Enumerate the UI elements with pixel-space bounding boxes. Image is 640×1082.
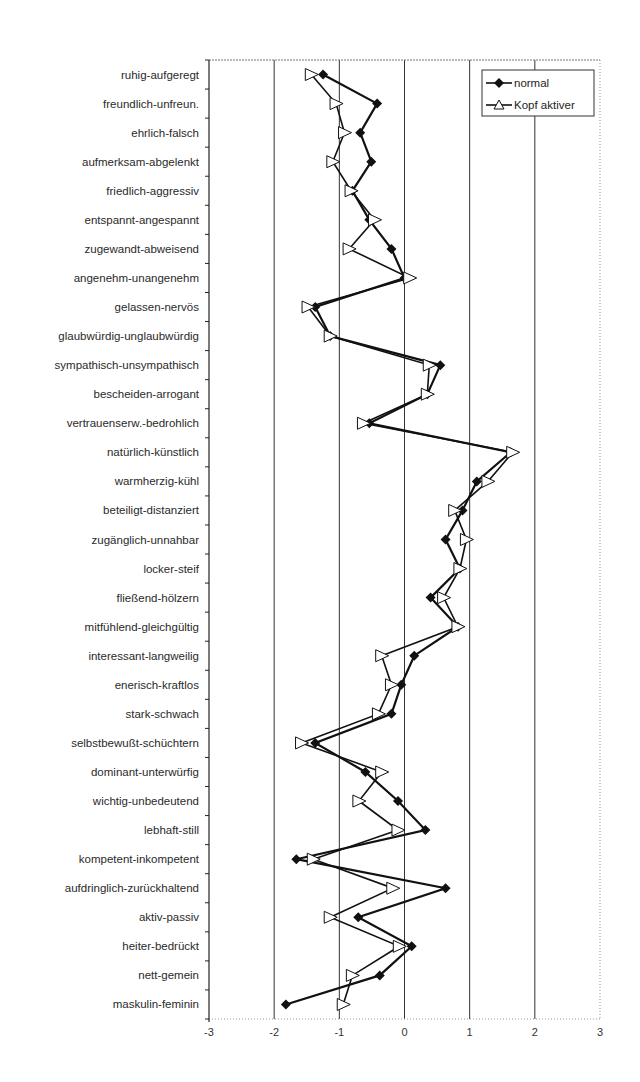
triangle-marker-icon (296, 737, 309, 749)
category-label: friedlich-aggressiv (106, 185, 199, 197)
diamond-marker-icon (355, 128, 365, 138)
triangle-marker-icon (387, 882, 400, 894)
category-label: locker-steif (143, 563, 199, 575)
category-label: beteiligt-distanziert (103, 504, 200, 516)
category-label: zugänglich-unnahbar (92, 534, 200, 546)
x-tick-label: 3 (597, 1026, 603, 1038)
triangle-marker-icon (404, 272, 417, 284)
triangle-marker-icon (357, 417, 370, 429)
triangle-marker-icon (482, 475, 495, 487)
data-series (281, 69, 520, 1011)
x-tick-label: 0 (401, 1026, 407, 1038)
category-label: bescheiden-arrogant (94, 388, 200, 400)
category-label: angenehm-unangenehm (74, 272, 199, 284)
category-label: entspannt-angespannt (85, 214, 200, 226)
category-label: vertrauenserw.-bedrohlich (67, 417, 199, 429)
category-label: glaubwürdig-unglaubwürdig (58, 330, 199, 342)
category-label: freundlich-unfreun. (103, 98, 199, 110)
category-label: heiter-bedrückt (122, 940, 200, 952)
legend-label-normal: normal (514, 77, 549, 89)
category-label: selbstbewußt-schüchtern (71, 737, 199, 749)
category-label: ruhig-aufgeregt (121, 69, 200, 81)
series-line-kopf-aktiver (302, 75, 513, 1005)
diamond-marker-icon (318, 70, 328, 80)
category-label: maskulin-feminin (113, 998, 199, 1010)
category-label: warmherzig-kühl (114, 475, 199, 487)
category-label: sympathisch-unsympathisch (55, 359, 199, 371)
triangle-marker-icon (460, 534, 473, 546)
diamond-marker-icon (281, 999, 291, 1009)
diamond-marker-icon (372, 99, 382, 109)
category-label: aufmerksam-abgelenkt (82, 156, 200, 168)
triangle-marker-icon (369, 214, 382, 226)
category-label: enerisch-kraftlos (115, 679, 200, 691)
triangle-marker-icon (385, 679, 398, 691)
triangle-marker-icon (302, 301, 315, 313)
diamond-marker-icon (291, 854, 301, 864)
legend-item-kopf-aktiver: Kopf aktiver (486, 99, 575, 111)
x-tick-label: 1 (467, 1026, 473, 1038)
category-label: nett-gemein (138, 969, 199, 981)
triangle-marker-icon (376, 650, 389, 662)
legend-label-kopf-aktiver: Kopf aktiver (514, 99, 575, 111)
triangle-marker-icon (339, 127, 352, 139)
triangle-marker-icon (305, 69, 318, 81)
axes (205, 60, 209, 1022)
category-label: fließend-hölzern (117, 592, 199, 604)
category-label: natürlich-künstlich (107, 446, 199, 458)
x-tick-label: -3 (204, 1026, 214, 1038)
category-label: zugewandt-abweisend (85, 243, 199, 255)
category-label: lebhaft-still (144, 824, 199, 836)
diamond-marker-icon (386, 709, 396, 719)
gridlines (209, 60, 600, 1019)
category-label: ehrlich-falsch (131, 127, 199, 139)
category-label: interessant-langweilig (88, 650, 199, 662)
semantic-differential-chart: ruhig-aufgeregtfreundlich-unfreun.ehrlic… (0, 0, 640, 1082)
triangle-marker-icon (343, 243, 356, 255)
triangle-marker-icon (507, 446, 520, 458)
diamond-marker-icon (353, 912, 363, 922)
x-tick-label: -1 (334, 1026, 344, 1038)
diamond-marker-icon (441, 883, 451, 893)
category-label: kompetent-inkompetent (79, 853, 200, 865)
triangle-marker-icon (376, 766, 389, 778)
x-tick-label: 2 (532, 1026, 538, 1038)
category-label: stark-schwach (126, 708, 200, 720)
series-line-normal (286, 75, 511, 1005)
triangle-marker-icon (438, 592, 451, 604)
category-label: aufdringlich-zurückhaltend (65, 882, 199, 894)
category-label: wichtig-unbedeutend (92, 795, 199, 807)
x-tick-label: -2 (269, 1026, 279, 1038)
triangle-marker-icon (324, 911, 337, 923)
category-label: aktiv-passiv (139, 911, 199, 923)
category-labels: ruhig-aufgeregtfreundlich-unfreun.ehrlic… (55, 69, 200, 1011)
category-label: gelassen-nervös (115, 301, 200, 313)
x-tick-labels: -3-2-10123 (204, 1026, 603, 1038)
legend: normal Kopf aktiver (482, 70, 594, 116)
category-label: dominant-unterwürfig (91, 766, 199, 778)
triangle-marker-icon (346, 969, 359, 981)
category-label: mitfühlend-gleichgültig (85, 621, 199, 633)
diamond-marker-icon (441, 535, 451, 545)
triangle-marker-icon (327, 156, 340, 168)
chart-canvas: ruhig-aufgeregtfreundlich-unfreun.ehrlic… (0, 0, 640, 1082)
